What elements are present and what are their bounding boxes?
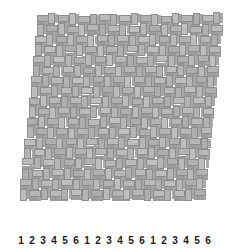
bar [95,147,104,156]
bar [32,169,41,178]
bar-top-face [20,189,27,201]
bar-top-face [185,189,192,201]
bar-top-face [76,44,83,56]
bar-side-face [218,35,221,44]
bar [119,14,128,23]
bar [108,127,117,136]
bar [135,66,144,75]
bar [76,138,85,147]
bar [109,14,118,23]
bar [193,96,202,105]
bar [52,167,61,176]
bar [143,189,152,198]
bar [52,66,61,75]
bar [156,157,165,166]
bar [42,66,51,75]
bar [73,169,82,178]
bar [200,138,209,147]
bar [60,96,69,105]
bar [171,13,180,22]
bar [126,55,135,64]
bar [128,126,137,135]
bar [179,35,188,44]
bar [66,137,75,146]
bar [43,158,52,167]
bar [62,168,71,177]
bar [39,95,48,104]
bar [42,168,51,177]
bar [107,35,116,44]
bar [192,107,201,116]
bar [36,24,45,33]
bar [78,15,87,24]
bar [64,55,73,64]
bar [111,96,120,105]
bar-top-face [164,96,171,108]
bar-top-face [37,24,44,36]
bar [203,107,212,116]
bar [190,127,199,136]
bar [86,35,95,44]
bar-field [18,8,224,233]
bar [81,189,90,198]
bar [109,116,118,125]
bar [158,137,167,146]
bar [105,159,114,168]
bar-top-face [106,54,113,66]
bar [189,34,198,43]
bar [62,76,71,85]
bar [130,13,139,22]
bar-top-face [173,106,180,118]
plot-area [18,8,224,233]
bar [143,85,152,94]
bar [112,86,121,95]
bar-top-face [144,189,151,201]
bar [113,178,122,187]
bar [105,54,114,63]
bar-top-face [100,116,107,128]
bar [46,127,55,136]
bar [36,127,45,136]
bar [131,106,140,115]
bar [153,86,162,95]
bar [58,14,67,23]
bar [87,127,96,136]
bar [152,96,161,105]
bar [61,86,70,95]
bar [114,66,123,75]
bar [145,169,154,178]
bar3-figure: 123456123456123456 [0,0,239,251]
bar [159,35,168,44]
bar [74,55,83,64]
bar-top-face [201,127,213,134]
bar [30,86,39,95]
bar [186,66,195,75]
bar [134,75,143,84]
bar [47,116,56,125]
bar-top-face [131,13,138,25]
bar [209,45,218,54]
bar-top-face [125,167,132,179]
bar [55,138,64,147]
bar-top-face [198,149,210,156]
bar [171,117,180,126]
bar-top-face [51,85,58,97]
bar [155,66,164,75]
bar [48,107,57,116]
bar-top-face [35,44,42,56]
bar [98,24,107,33]
bar [106,45,115,54]
bar [165,75,174,84]
bar [74,158,83,167]
bar [90,96,99,105]
bar [104,66,113,75]
bar [88,118,97,127]
bar [41,75,50,84]
bar [163,189,172,198]
bar [113,75,122,84]
bar [150,14,159,23]
bar [117,34,126,43]
bar [34,44,43,53]
bar-top-face [48,13,55,25]
bar [189,137,198,146]
